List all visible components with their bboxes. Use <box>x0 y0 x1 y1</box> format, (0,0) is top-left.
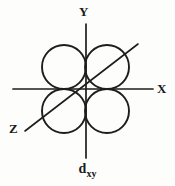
orbital-lobe-upper-left <box>42 45 86 89</box>
y-axis-label: Y <box>79 5 88 18</box>
x-axis-label: X <box>157 82 166 95</box>
z-axis-label: Z <box>9 122 18 135</box>
z-axis-line <box>25 44 138 131</box>
orbital-drawing <box>0 0 175 186</box>
orbital-lobe-lower-right <box>85 89 129 133</box>
orbital-lobe-lower-left <box>42 89 86 133</box>
orbital-figure: Y X Z dxy <box>0 0 175 186</box>
orbital-subscript: xy <box>86 168 96 179</box>
orbital-caption: dxy <box>0 162 175 179</box>
